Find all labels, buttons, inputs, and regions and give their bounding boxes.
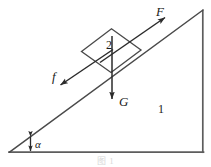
label-force-f: f <box>52 69 58 84</box>
figure-caption: 图 1 <box>0 156 211 167</box>
label-force-G: G <box>119 94 129 109</box>
incline-triangle <box>9 10 204 152</box>
label-angle-alpha: α <box>35 138 41 150</box>
incline-slope-line <box>10 10 204 152</box>
label-force-F: F <box>155 4 165 19</box>
figure-container: F f G 2 1 α 图 1 <box>0 0 211 167</box>
label-block-2: 2 <box>106 38 112 52</box>
inclined-plane-diagram: F f G 2 1 α <box>0 0 211 167</box>
label-incline-1: 1 <box>158 102 164 116</box>
